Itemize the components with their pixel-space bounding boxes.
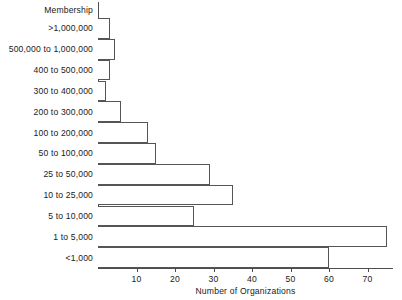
x-axis-tick-label: 50 xyxy=(286,274,296,284)
bar xyxy=(98,60,110,81)
bar-category-label: <1,000 xyxy=(66,253,93,263)
bar xyxy=(98,101,121,122)
bar-row: 500,000 to 1,000,000 xyxy=(98,39,388,60)
x-axis-line xyxy=(98,268,393,269)
bar xyxy=(98,206,194,227)
bar-row: 25 to 50,000 xyxy=(98,164,388,185)
x-axis-tick-label: 20 xyxy=(170,274,180,284)
bar xyxy=(98,247,329,268)
bar xyxy=(98,81,106,102)
bar-row: 10 to 25,000 xyxy=(98,185,388,206)
x-axis-tick-label: 10 xyxy=(132,274,142,284)
x-axis-tick xyxy=(175,268,176,272)
bar xyxy=(98,18,110,39)
x-axis-tick xyxy=(368,268,369,272)
bar xyxy=(98,39,115,60)
x-axis-tick xyxy=(214,268,215,272)
bar xyxy=(98,185,233,206)
bar xyxy=(98,164,210,185)
bar-row: 1 to 5,000 xyxy=(98,226,388,247)
x-axis-tick-label: 40 xyxy=(247,274,257,284)
x-axis-tick xyxy=(252,268,253,272)
bar xyxy=(98,226,387,247)
bar-row: <1,000 xyxy=(98,247,388,268)
x-axis-title: Number of Organizations xyxy=(98,286,393,296)
x-axis-tick-label: 60 xyxy=(324,274,334,284)
bar-category-label: 400 to 500,000 xyxy=(34,65,93,75)
y-axis-title: Membership xyxy=(0,5,93,15)
x-axis-tick-label: 70 xyxy=(363,274,373,284)
bar-row: 400 to 500,000 xyxy=(98,60,388,81)
bar-category-label: 200 to 300,000 xyxy=(34,107,93,117)
bar-category-label: 500,000 to 1,000,000 xyxy=(9,44,93,54)
bar-row: 300 to 400,000 xyxy=(98,81,388,102)
x-axis-tick-label: 30 xyxy=(209,274,219,284)
plot-area: >1,000,000500,000 to 1,000,000400 to 500… xyxy=(98,18,388,268)
bar-category-label: 50 to 100,000 xyxy=(38,148,93,158)
bar-category-label: 10 to 25,000 xyxy=(43,190,93,200)
x-axis-tick xyxy=(329,268,330,272)
bar-row: 5 to 10,000 xyxy=(98,206,388,227)
bar-row: 200 to 300,000 xyxy=(98,101,388,122)
bar-category-label: 300 to 400,000 xyxy=(34,86,93,96)
bar-row: 50 to 100,000 xyxy=(98,143,388,164)
membership-bar-chart: Membership >1,000,000500,000 to 1,000,00… xyxy=(0,0,402,300)
bar-category-label: 1 to 5,000 xyxy=(53,232,93,242)
bar-category-label: 5 to 10,000 xyxy=(48,211,93,221)
bar xyxy=(98,143,156,164)
bar xyxy=(98,122,148,143)
bar-category-label: >1,000,000 xyxy=(48,23,93,33)
bar-category-label: 100 to 200,000 xyxy=(34,128,93,138)
x-axis-tick xyxy=(137,268,138,272)
bar-category-label: 25 to 50,000 xyxy=(43,169,93,179)
x-axis-tick xyxy=(291,268,292,272)
bar-row: >1,000,000 xyxy=(98,18,388,39)
bar-row: 100 to 200,000 xyxy=(98,122,388,143)
